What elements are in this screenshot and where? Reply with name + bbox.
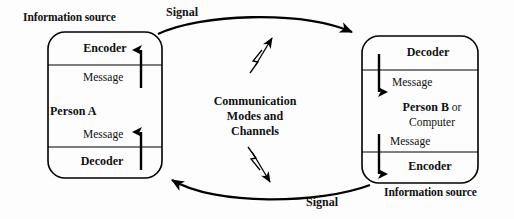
- right-lower-message-label: Message: [390, 136, 430, 148]
- right-upper-message-label: Message: [392, 77, 432, 89]
- lightning-bolt-icon-top: [250, 38, 272, 73]
- top-signal-curve: [158, 17, 352, 34]
- top-signal-label: Signal: [166, 6, 198, 18]
- left-information-source-caption: Information source: [23, 12, 116, 24]
- left-top-slot-label: Encoder: [0, 42, 210, 54]
- left-bottom-slot-label: Decoder: [0, 155, 204, 167]
- right-middle-person-name: Person B: [403, 100, 449, 114]
- right-middle-person-line2: Computer: [380, 117, 484, 129]
- right-information-source-caption: Information source: [384, 187, 477, 199]
- left-lower-message-label: Message: [83, 129, 123, 141]
- right-top-slot-label: Decoder: [370, 46, 486, 58]
- right-bottom-slot-label: Encoder: [372, 160, 488, 172]
- left-upper-message-label: Message: [83, 72, 123, 84]
- center-communication-line1: Communication: [195, 94, 315, 109]
- diagram-canvas: Information source Encoder Message Perso…: [0, 0, 514, 219]
- right-middle-person-conjunction: or: [449, 101, 461, 113]
- lightning-bolt-icon-bottom: [248, 147, 270, 182]
- center-communication-line2: Modes and: [195, 109, 315, 124]
- bottom-signal-curve: [172, 180, 370, 199]
- left-middle-person-label: Person A: [50, 105, 96, 117]
- bottom-signal-label: Signal: [306, 196, 338, 208]
- right-middle-person-line1: Person B or: [380, 101, 484, 114]
- center-communication-line3: Channels: [195, 124, 315, 139]
